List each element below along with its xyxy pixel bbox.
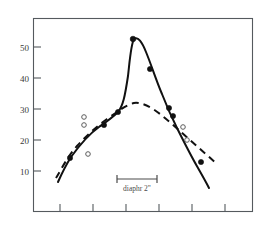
figure-canvas: 50 40 30 20 10 d — [0, 0, 272, 230]
x-axis-ticks — [60, 204, 225, 212]
y-tick-label-10: 10 — [20, 167, 30, 177]
data-point-open — [185, 138, 190, 143]
data-point-filled — [101, 122, 106, 127]
data-point-filled — [170, 113, 175, 118]
data-point-filled — [130, 36, 136, 42]
scale-bar-annotation: diaphr 2" — [117, 175, 157, 193]
y-tick-label-20: 20 — [20, 136, 30, 146]
solid-curve — [58, 38, 209, 188]
data-point-filled — [115, 109, 120, 114]
data-point-open — [82, 123, 87, 128]
data-point-open — [181, 125, 186, 130]
data-point-filled — [166, 105, 171, 110]
data-point-filled — [198, 159, 203, 164]
data-point-open — [82, 115, 87, 120]
data-point-filled — [67, 155, 72, 160]
y-tick-label-50: 50 — [20, 43, 30, 53]
y-tick-label-40: 40 — [20, 74, 30, 84]
scale-bar-label: diaphr 2" — [123, 184, 151, 193]
data-point-open — [86, 152, 91, 157]
dashed-curve — [56, 103, 216, 178]
data-point-filled — [147, 66, 152, 71]
y-axis-ticks — [34, 47, 42, 171]
y-axis-tick-labels: 50 40 30 20 10 — [20, 43, 30, 177]
solid-curve-markers — [67, 36, 203, 164]
y-tick-label-30: 30 — [20, 105, 30, 115]
